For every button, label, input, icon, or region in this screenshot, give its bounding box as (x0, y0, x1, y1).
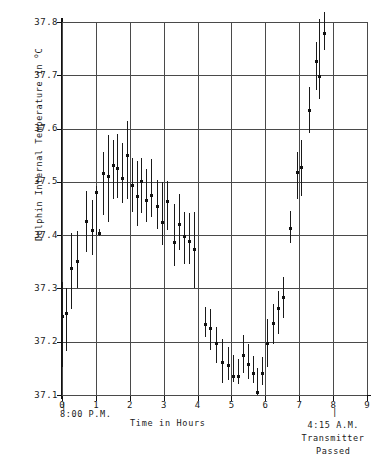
data-point-marker (126, 154, 129, 157)
data-point-marker (289, 227, 292, 230)
data-point-marker (261, 372, 264, 375)
y-tick-label: 37.3 (34, 284, 58, 293)
error-bar (167, 181, 168, 230)
data-point-marker (252, 372, 255, 375)
data-point-marker (193, 248, 196, 251)
error-bar (127, 121, 128, 199)
error-bar (278, 291, 279, 335)
error-bar (137, 161, 138, 226)
gridline-vertical (333, 22, 334, 395)
data-point-marker (227, 364, 230, 367)
x-tick-mark (130, 396, 131, 401)
data-point-marker (156, 205, 159, 208)
data-point-marker (91, 229, 94, 232)
y-tick-label: 37.1 (34, 391, 58, 400)
x-tick-mark (198, 396, 199, 401)
data-point-marker (121, 177, 124, 180)
data-point-marker (161, 221, 164, 224)
error-bar (108, 135, 109, 222)
data-point-marker (112, 164, 115, 167)
x-axis-label: Time in Hours (130, 418, 206, 428)
chart-figure: Dolphin Internal Temperature in oC 37.13… (0, 0, 383, 458)
error-bar (71, 233, 72, 309)
data-point-marker (61, 315, 64, 318)
y-tick-label: 37.7 (34, 71, 58, 80)
data-point-marker (131, 184, 134, 187)
data-point-marker (65, 312, 68, 315)
error-bar (113, 140, 114, 199)
data-point-marker (188, 240, 191, 243)
annotation-start-time: 8:00 P.M. (60, 409, 111, 419)
data-point-marker (183, 235, 186, 238)
error-bar (184, 212, 185, 264)
x-tick-mark (231, 396, 232, 401)
x-tick-mark (164, 396, 165, 401)
data-point-marker (85, 220, 88, 223)
y-tick-label: 37.4 (34, 231, 58, 240)
gridline-vertical (299, 22, 300, 395)
error-bar (92, 200, 93, 255)
data-point-marker (266, 342, 269, 345)
x-tick-mark (265, 396, 266, 401)
data-point-marker (256, 391, 259, 394)
error-bar (262, 357, 263, 386)
data-point-marker (272, 322, 275, 325)
x-tick-mark (96, 396, 97, 401)
data-point-marker (204, 323, 207, 326)
y-axis-label: Dolphin Internal Temperature in oC (32, 71, 44, 241)
gridline-vertical (130, 22, 131, 395)
data-point-marker (315, 60, 318, 63)
error-bar (253, 356, 254, 384)
annotation-tick: | (332, 409, 337, 416)
data-point-marker (247, 363, 250, 366)
x-tick-label: 9 (357, 401, 377, 410)
data-point-marker (95, 191, 98, 194)
error-bar (162, 182, 163, 245)
y-tick-label: 37.6 (34, 124, 58, 133)
gridline-vertical (164, 22, 165, 395)
data-point-marker (242, 354, 245, 357)
data-point-marker (70, 267, 73, 270)
data-point-marker (98, 232, 101, 235)
x-tick-mark (299, 396, 300, 401)
y-tick-label: 37.8 (34, 18, 58, 27)
data-point-marker (282, 296, 285, 299)
error-bar (324, 12, 325, 49)
error-bar (297, 152, 298, 199)
data-point-marker (76, 260, 79, 263)
data-point-marker (300, 166, 303, 169)
y-axis-unit: C (34, 48, 44, 54)
data-point-marker (166, 200, 169, 203)
data-point-marker (232, 375, 235, 378)
annotation-end-note-line2: Passed (316, 446, 350, 456)
gridline-vertical (367, 22, 368, 395)
data-point-marker (221, 361, 224, 364)
gridline-vertical (265, 22, 266, 395)
error-bar (238, 359, 239, 384)
data-point-marker (277, 307, 280, 310)
data-point-marker (178, 223, 181, 226)
error-bar (316, 42, 317, 91)
data-point-marker (107, 175, 110, 178)
plot-area (62, 22, 367, 395)
gridline-horizontal (62, 235, 367, 236)
gridline-horizontal (62, 75, 367, 76)
data-point-marker (116, 167, 119, 170)
data-point-marker (150, 194, 153, 197)
error-bar (151, 159, 152, 218)
data-point-marker (215, 342, 218, 345)
gridline-horizontal (62, 288, 367, 289)
data-point-marker (102, 172, 105, 175)
data-point-marker (145, 199, 148, 202)
error-bar (122, 143, 123, 203)
error-bar (66, 288, 67, 351)
x-tick-label: 7 (289, 401, 309, 410)
error-bar (174, 204, 175, 266)
x-tick-label: 4 (188, 401, 208, 410)
data-point-marker (323, 32, 326, 35)
gridline-vertical (231, 22, 232, 395)
data-point-marker (318, 75, 321, 78)
gridline-horizontal (62, 22, 367, 23)
error-bar (103, 152, 104, 215)
y-tick-label: 37.2 (34, 337, 58, 346)
